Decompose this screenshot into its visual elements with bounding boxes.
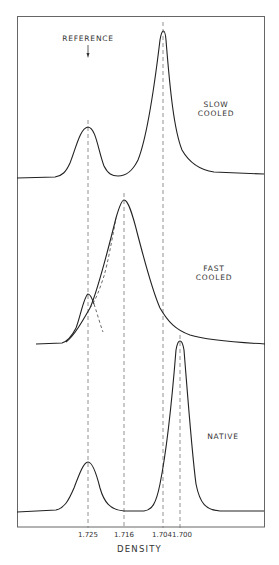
density-profile-chart <box>0 0 279 565</box>
tick-label-1716: 1.716 <box>114 531 134 539</box>
fast-cooled-label-line2: COOLED <box>194 273 234 282</box>
native-label: NATIVE <box>200 432 246 441</box>
fast-cooled-resolved-dashed <box>94 304 103 332</box>
tick-label-1725: 1.725 <box>78 531 98 539</box>
slow-cooled-label: SLOW COOLED <box>196 100 236 118</box>
reference-arrow-icon <box>87 45 90 58</box>
fast-cooled-label: FAST COOLED <box>194 264 234 282</box>
reference-lines <box>88 22 180 528</box>
fast-cooled-main-trace <box>66 200 265 344</box>
fast-cooled-label-line1: FAST <box>194 264 234 273</box>
slow-cooled-label-line2: COOLED <box>196 109 236 118</box>
reference-label: REFERENCE <box>62 34 114 43</box>
slow-cooled-label-line1: SLOW <box>196 100 236 109</box>
tick-label-1704: 1.704 <box>152 531 172 539</box>
x-axis-label: DENSITY <box>0 544 279 554</box>
tick-label-1700: 1.700 <box>172 531 192 539</box>
fast-cooled-trace <box>36 294 94 344</box>
native-trace <box>17 341 264 512</box>
